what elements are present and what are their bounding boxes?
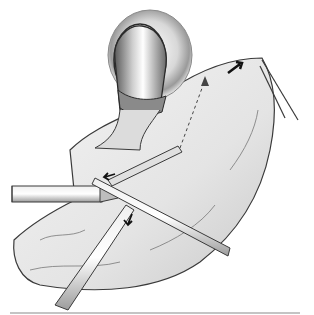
surgical-illustration	[0, 0, 314, 315]
